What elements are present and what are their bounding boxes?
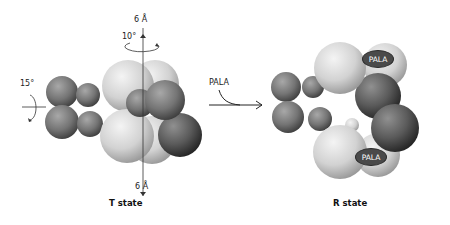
r-state-caption: R state — [333, 198, 367, 208]
bound-pala-badge-bottom: PALA — [355, 148, 387, 166]
horizontal-rotation-arrow-icon — [30, 95, 36, 120]
molecule-illustration — [0, 0, 450, 225]
horizontal-rotation-label: 15° — [20, 79, 34, 88]
vertical-rotation-label: 10° — [122, 32, 136, 41]
t-regulatory-upper — [46, 76, 100, 108]
top-translation-label: 6 Å — [134, 15, 147, 24]
t-regulatory-lower — [45, 105, 103, 139]
r-state-molecule — [271, 42, 419, 179]
vertical-rotation-arrow-icon — [125, 43, 159, 52]
t-state-caption: T state — [109, 198, 142, 208]
t-state-molecule — [45, 60, 202, 164]
bound-pala-badge-top: PALA — [362, 50, 394, 68]
transition-arrow — [209, 90, 262, 109]
pala-ligand-label: PALA — [209, 78, 229, 87]
bottom-translation-label: 6 Å — [135, 182, 148, 191]
down-arrow-icon — [140, 192, 146, 196]
ligand-entry-curve-icon — [219, 90, 240, 105]
diagram-stage: 6 Å 10° 15° 6 Å T state PALA PALA PALA R… — [0, 0, 450, 225]
up-arrow-icon — [140, 34, 146, 38]
